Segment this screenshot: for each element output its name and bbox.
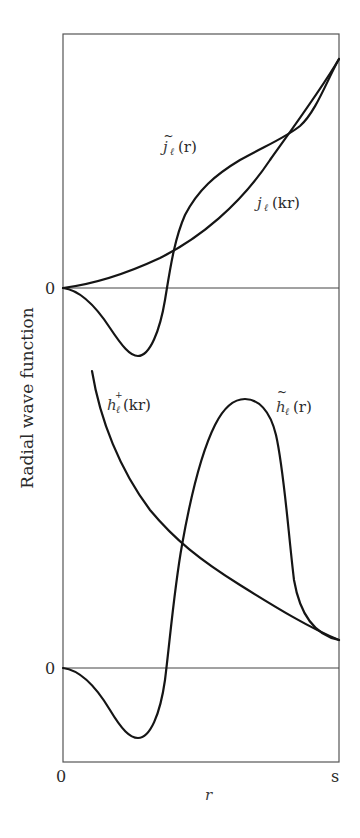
x-axis-label: r (205, 786, 213, 804)
label-h-plus-sub: ℓ (116, 404, 120, 415)
label-j-free-base: j (254, 194, 262, 212)
radial-wave-function-diagram: j ~ ℓ (r) j ℓ (kr) h + ℓ (kr) h ~ ℓ (r) … (0, 0, 360, 838)
curve-j-free (63, 59, 339, 288)
tilde-mark: ~ (164, 129, 174, 143)
y-axis-label: Radial wave function (17, 307, 37, 489)
label-h-tilde-arg: (r) (293, 398, 312, 416)
label-j-tilde-arg: (r) (178, 138, 197, 156)
label-j-free-arg: (kr) (272, 194, 300, 212)
curve-h-tilde (63, 399, 339, 738)
label-j-tilde: j ~ ℓ (r) (160, 129, 197, 157)
label-h-tilde: h ~ ℓ (r) (276, 385, 312, 417)
x-tick-start: 0 (56, 767, 66, 786)
label-j-free: j ℓ (kr) (254, 194, 300, 213)
label-h-tilde-sub: ℓ (285, 406, 289, 417)
lower-zero-label: 0 (45, 659, 55, 678)
label-h-plus: h + ℓ (kr) (107, 390, 151, 415)
label-j-free-sub: ℓ (264, 202, 268, 213)
upper-zero-label: 0 (45, 279, 55, 298)
x-tick-end: s (331, 767, 339, 786)
tilde-mark: ~ (277, 385, 287, 399)
label-h-plus-arg: (kr) (123, 396, 151, 414)
label-h-plus-sup: + (115, 390, 123, 400)
label-j-tilde-sub: ℓ (170, 146, 174, 157)
